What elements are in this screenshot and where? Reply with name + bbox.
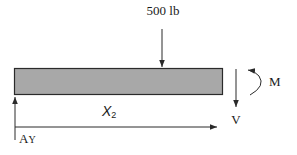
- applied-load-label: 500 lb: [147, 3, 180, 18]
- moment-arrow-icon: [248, 70, 261, 95]
- free-body-diagram: 500 lb AY X2 V M: [0, 0, 297, 155]
- reaction-label: AY: [19, 131, 36, 146]
- position-axis-label: X2: [101, 103, 116, 120]
- moment-label: M: [269, 74, 281, 89]
- beam: [15, 69, 223, 95]
- shear-label: V: [231, 112, 241, 127]
